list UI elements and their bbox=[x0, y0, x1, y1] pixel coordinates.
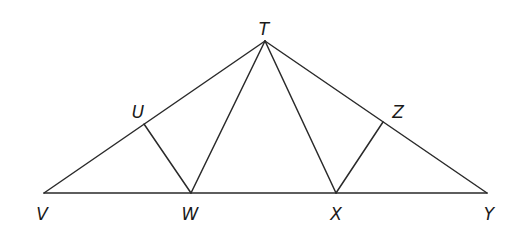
segment-ty bbox=[265, 41, 487, 193]
segment-tx bbox=[265, 41, 336, 193]
segment-zx bbox=[336, 122, 383, 193]
segments bbox=[44, 41, 487, 193]
label-w: W bbox=[182, 204, 200, 224]
label-z: Z bbox=[391, 102, 404, 122]
triangle-diagram: T U Z V W X Y bbox=[0, 0, 518, 231]
label-u: U bbox=[132, 102, 145, 122]
segment-vt bbox=[44, 41, 265, 193]
label-t: T bbox=[259, 19, 271, 39]
segment-uw bbox=[144, 124, 191, 193]
label-x: X bbox=[329, 204, 342, 224]
segment-tw bbox=[191, 41, 265, 193]
label-v: V bbox=[36, 204, 49, 224]
label-y: Y bbox=[484, 204, 496, 224]
